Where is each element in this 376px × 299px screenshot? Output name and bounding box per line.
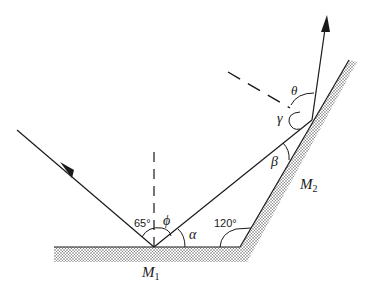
mirror-label-m2: M2 xyxy=(300,177,318,192)
mirror-label-m1-letter: M xyxy=(142,264,155,280)
incident-arrow-icon xyxy=(60,162,74,178)
mirror-m1 xyxy=(54,247,247,262)
incident-ray xyxy=(17,130,154,247)
normal-m2-dashed xyxy=(228,72,290,108)
angle-label-gamma: γ xyxy=(277,112,283,126)
angle-arc-65-phi xyxy=(142,228,171,237)
angle-label-alpha: α xyxy=(189,228,196,242)
mirror-m1-hatching xyxy=(54,247,247,262)
ray-diagram-svg xyxy=(0,0,376,299)
angle-label-theta: θ xyxy=(291,84,297,97)
outgoing-arrow-icon xyxy=(321,15,330,32)
angle-label-phi: ϕ xyxy=(163,214,170,228)
mirror-label-m2-subscript: 2 xyxy=(313,183,318,194)
mirror-label-m2-letter: M xyxy=(300,176,313,192)
angle-arc-beta xyxy=(283,143,289,160)
angle-label-beta: β xyxy=(271,155,278,169)
angle-arc-alpha xyxy=(178,229,185,247)
mirror-label-m1-subscript: 1 xyxy=(155,271,160,282)
mirror-m2 xyxy=(240,60,357,262)
angle-label-120: 120° xyxy=(214,218,237,229)
mirror-m2-hatching xyxy=(240,60,357,262)
angle-label-65: 65° xyxy=(134,218,151,229)
diagram-canvas: 65° ϕ α 120° β γ θ M1 M2 xyxy=(0,0,376,299)
angle-arc-gamma xyxy=(289,112,300,129)
mirror-label-m1: M1 xyxy=(142,265,160,280)
